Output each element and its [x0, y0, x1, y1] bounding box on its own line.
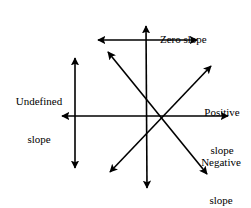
main-vertical-axis-arrow — [146, 26, 147, 188]
negative-slope-label-line2: slope — [193, 194, 249, 207]
negative-slope-label: Negative slope — [193, 131, 249, 208]
undefined-slope-label-line2: slope — [8, 133, 70, 146]
undefined-slope-label: Undefined slope — [8, 70, 70, 170]
undefined-slope-label-line1: Undefined — [8, 95, 70, 108]
negative-slope-label-line1: Negative — [193, 156, 249, 169]
slope-diagram-figure: Zero slope Undefined slope Positive slop… — [0, 0, 251, 208]
zero-slope-label-line1: Zero slope — [160, 33, 207, 46]
zero-slope-label: Zero slope — [160, 8, 207, 71]
positive-slope-label-line1: Positive — [196, 106, 248, 119]
